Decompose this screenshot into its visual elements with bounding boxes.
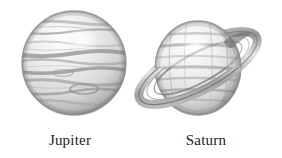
saturn-label: Saturn <box>145 131 267 149</box>
jupiter-label: Jupiter <box>10 131 130 149</box>
planets-figure: Jupiter Saturn <box>0 0 282 158</box>
